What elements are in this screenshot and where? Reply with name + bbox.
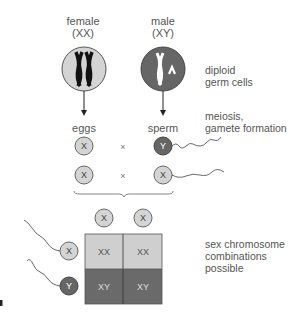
germ-cells-line-2: germ cells <box>205 76 253 88</box>
meiosis-line-1: meiosis, <box>205 110 287 122</box>
cell-xx: XX <box>137 247 149 257</box>
sperm-y-label: Y <box>160 141 166 151</box>
sperm-tail <box>172 137 221 148</box>
sperm-tail <box>27 260 60 286</box>
panel-label-mark <box>0 300 3 306</box>
eggs-label: eggs <box>64 122 104 134</box>
sperm-tail <box>172 170 224 178</box>
cross-row-2: X × X <box>75 166 224 184</box>
combinations-line-1: sex chromosome <box>205 238 285 250</box>
arrow-down-icon <box>81 110 87 116</box>
svg-text:X: X <box>66 246 72 256</box>
cell-xx: XX <box>98 247 110 257</box>
punnett-square: XX XX XY XY <box>85 234 162 304</box>
combinations-label: sex chromosome combinations possible <box>205 238 285 274</box>
egg-x-label: X <box>81 141 87 151</box>
cell-xy: XY <box>137 282 149 292</box>
meiosis-line-2: gamete formation <box>205 122 287 134</box>
cell-xy: XY <box>98 282 110 292</box>
combinations-line-2: combinations <box>205 250 285 262</box>
svg-text:X: X <box>101 213 107 223</box>
sperm-x-label: X <box>160 170 166 180</box>
sperm-tail <box>24 220 60 251</box>
meiosis-label: meiosis, gamete formation <box>205 110 287 134</box>
arrow-down-icon <box>160 110 166 116</box>
sperm-label: sperm <box>143 122 183 134</box>
female-germ-cell <box>62 47 106 91</box>
svg-text:X: X <box>140 213 146 223</box>
egg-x-label: X <box>81 170 87 180</box>
cross-row-1: X × Y <box>75 137 221 155</box>
combinations-line-3: possible <box>205 262 285 274</box>
brace <box>74 191 173 197</box>
cross-symbol: × <box>120 142 125 152</box>
svg-text:Y: Y <box>66 281 72 291</box>
germ-cells-label: diploid germ cells <box>205 64 253 88</box>
male-germ-cell <box>141 47 185 91</box>
germ-cells-line-1: diploid <box>205 64 253 76</box>
cross-symbol: × <box>120 171 125 181</box>
